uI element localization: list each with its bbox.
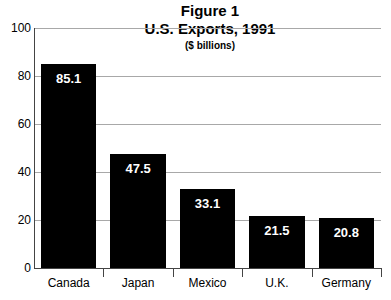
bar[interactable]: 33.1 bbox=[180, 189, 236, 268]
y-axis-tick-label: 20 bbox=[3, 214, 31, 226]
bar[interactable]: 20.8 bbox=[319, 218, 375, 268]
x-axis-category-label: Mexico bbox=[173, 276, 242, 290]
bar-series: 85.147.533.121.520.8 bbox=[34, 28, 381, 268]
x-axis-category-label: Canada bbox=[34, 276, 103, 290]
figure-bar-chart: Figure 1 U.S. Exports, 1991 ($ billions)… bbox=[0, 0, 391, 300]
y-axis-tick-label: 80 bbox=[3, 70, 31, 82]
bar-slot: 85.1 bbox=[41, 28, 97, 268]
y-axis-tick-label: 60 bbox=[3, 118, 31, 130]
bar-slot: 20.8 bbox=[319, 28, 375, 268]
x-axis-category-labels: CanadaJapanMexicoU.K.Germany bbox=[34, 276, 381, 296]
plot-area: 85.147.533.121.520.8 bbox=[34, 28, 381, 268]
y-axis-line bbox=[34, 28, 35, 269]
bar-value-label: 21.5 bbox=[249, 224, 305, 238]
y-axis-tick-label: 100 bbox=[3, 22, 31, 34]
x-axis-tick-mark bbox=[381, 268, 382, 277]
chart-title: Figure 1 bbox=[60, 2, 360, 20]
x-axis-category-label: Germany bbox=[312, 276, 381, 290]
x-axis-line bbox=[34, 268, 381, 269]
bar-value-label: 47.5 bbox=[110, 162, 166, 176]
y-axis-tick-labels: 100806040200 bbox=[0, 28, 31, 269]
bar-value-label: 20.8 bbox=[319, 226, 375, 240]
bar[interactable]: 21.5 bbox=[249, 216, 305, 268]
bar-slot: 47.5 bbox=[110, 28, 166, 268]
bar[interactable]: 47.5 bbox=[110, 154, 166, 268]
bar[interactable]: 85.1 bbox=[41, 64, 97, 268]
y-axis-tick-label: 0 bbox=[3, 262, 31, 274]
x-axis-category-label: U.K. bbox=[242, 276, 311, 290]
x-axis-category-label: Japan bbox=[103, 276, 172, 290]
bar-slot: 33.1 bbox=[180, 28, 236, 268]
bar-value-label: 33.1 bbox=[180, 197, 236, 211]
bar-slot: 21.5 bbox=[249, 28, 305, 268]
bar-value-label: 85.1 bbox=[41, 72, 97, 86]
y-axis-tick-label: 40 bbox=[3, 166, 31, 178]
